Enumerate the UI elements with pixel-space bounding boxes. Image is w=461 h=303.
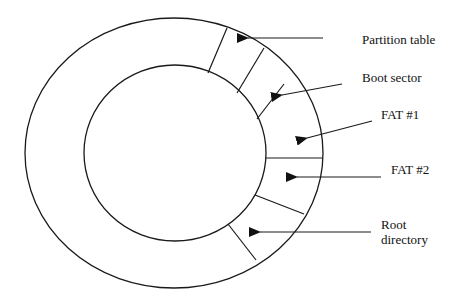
label-fat2: FAT #2 — [391, 162, 429, 177]
label-root-line2: directory — [381, 232, 428, 247]
divider-partition-boot — [237, 48, 264, 93]
divider-partition-left — [208, 28, 227, 73]
inner-disk-edge — [84, 65, 266, 241]
outer-disk-edge — [25, 18, 323, 288]
label-root-line1: Root — [381, 217, 406, 232]
divider-fat2-root — [255, 195, 304, 214]
arrow-fat1 — [307, 121, 372, 138]
label-fat1: FAT #1 — [381, 107, 419, 122]
divider-boot-fat1 — [257, 84, 284, 119]
disk-layout-diagram: Partition table Boot sector FAT #1 FAT #… — [0, 0, 461, 303]
arrow-boot-sector — [282, 84, 342, 95]
label-partition-table: Partition table — [362, 32, 435, 47]
divider-root-end — [228, 224, 256, 260]
label-boot-sector: Boot sector — [362, 70, 422, 85]
